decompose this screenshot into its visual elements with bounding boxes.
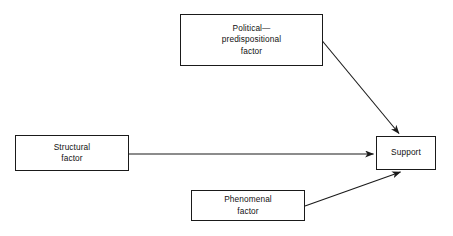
edge-phenomenal-to-support xyxy=(305,172,401,206)
node-phenomenal-label: Phenomenal factor xyxy=(221,194,275,217)
node-support-label: Support xyxy=(388,147,424,159)
node-political-label: Political— predispositional factor xyxy=(219,23,284,58)
node-structural-label: Structural factor xyxy=(51,142,94,165)
diagram-canvas: Political— predispositional factor Struc… xyxy=(0,0,453,236)
node-political-predispositional-factor: Political— predispositional factor xyxy=(180,14,323,66)
node-phenomenal-factor: Phenomenal factor xyxy=(191,190,305,221)
edge-political-to-support xyxy=(322,41,399,134)
node-support: Support xyxy=(376,136,436,170)
node-structural-factor: Structural factor xyxy=(15,135,129,171)
